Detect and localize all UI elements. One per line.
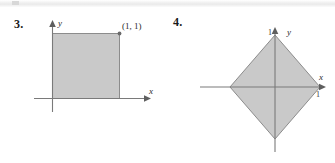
figure-4-y-axis-label: y (287, 27, 291, 37)
x-axis-arrowhead (319, 84, 326, 91)
figure-4: 4. y x 1 1 (167, 0, 335, 163)
y-axis-arrowhead (272, 27, 279, 34)
figure-3-y-axis-label: y (58, 18, 62, 28)
corner-point-label: (1, 1) (122, 21, 142, 31)
figure-3-x-axis-label: x (149, 86, 153, 96)
figure-4-y-tick-label: 1 (268, 28, 272, 37)
figure-4-plot (167, 0, 335, 163)
figure-3: 3. y x (1, 1) (0, 0, 167, 163)
figure-4-x-axis-label: x (319, 72, 323, 82)
y-axis-arrowhead (49, 20, 56, 27)
corner-point-marker (118, 32, 122, 36)
figure-3-plot (0, 0, 167, 163)
unit-square-region (53, 34, 120, 99)
figure-4-x-tick-label: 1 (316, 90, 320, 99)
worksheet-page: 3. y x (1, 1) 4. (0, 0, 335, 163)
x-axis-arrowhead (144, 95, 151, 102)
